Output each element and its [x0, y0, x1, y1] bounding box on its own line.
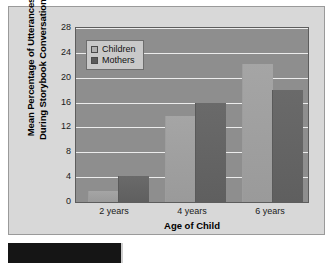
bar-mothers-4-years — [195, 103, 226, 202]
x-tick-label-6-years: 6 years — [231, 206, 309, 216]
bar-mothers-2-years — [118, 176, 149, 202]
legend-item-children: Children — [91, 44, 136, 55]
x-tick-label-4-years: 4 years — [153, 206, 231, 216]
bar-children-6-years — [242, 64, 273, 202]
legend: Children Mothers — [86, 40, 144, 70]
y-axis-title-line1: Mean Percentage of Utterances — [25, 0, 37, 158]
x-tick-label-2-years: 2 years — [75, 206, 153, 216]
caption-bar — [8, 243, 123, 263]
y-tick-label: 4 — [45, 172, 71, 181]
legend-label-mothers: Mothers — [102, 55, 135, 66]
bar-children-2-years — [88, 191, 119, 202]
y-tick-label: 0 — [45, 197, 71, 206]
bar-children-4-years — [165, 116, 196, 202]
bar-mothers-6-years — [272, 90, 303, 202]
gridline — [76, 28, 308, 29]
legend-swatch-icon — [91, 46, 98, 53]
figure-panel: 28 24 20 16 12 8 4 0 Mean Percentage of … — [8, 6, 325, 235]
legend-item-mothers: Mothers — [91, 55, 136, 66]
x-axis-title: Age of Child — [75, 220, 309, 231]
legend-label-children: Children — [102, 44, 136, 55]
y-axis-title-line2: During Storybook Conversations — [37, 0, 49, 158]
gridline — [76, 78, 308, 79]
y-axis-title: Mean Percentage of Utterances During Sto… — [25, 0, 49, 158]
plot-area: Children Mothers — [75, 27, 309, 203]
x-axis-ticks: 2 years 4 years 6 years — [75, 206, 309, 216]
legend-swatch-icon — [91, 57, 98, 64]
